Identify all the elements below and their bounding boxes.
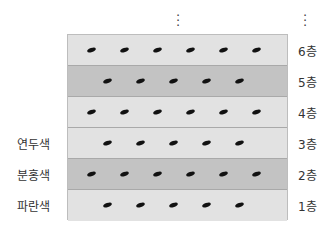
- grain-icon: [219, 47, 229, 54]
- grain-icon: [202, 140, 212, 147]
- layer-3층: [68, 128, 287, 159]
- layer-6층: [68, 35, 287, 66]
- grain-icon: [252, 171, 262, 178]
- layer-5층: [68, 66, 287, 97]
- grain-icon: [186, 109, 196, 116]
- floor-label: 5층: [298, 73, 317, 90]
- grain-icon: [120, 109, 130, 116]
- grain-icon: [202, 78, 212, 85]
- grain-icon: [87, 47, 97, 54]
- grain-icon: [103, 202, 113, 209]
- grain-icon: [120, 47, 130, 54]
- grain-icon: [169, 78, 179, 85]
- grain-icon: [186, 171, 196, 178]
- floor-label: 4층: [298, 104, 317, 121]
- grain-icon: [169, 202, 179, 209]
- floor-label: 2층: [298, 166, 317, 183]
- grain-icon: [169, 140, 179, 147]
- grain-icon: [252, 47, 262, 54]
- layer-1층: [68, 190, 287, 221]
- grain-icon: [153, 109, 163, 116]
- grain-icon: [120, 171, 130, 178]
- color-label: 분홍색: [17, 166, 50, 183]
- grain-icon: [202, 202, 212, 209]
- grain-icon: [87, 171, 97, 178]
- grain-icon: [235, 202, 245, 209]
- grain-icon: [136, 202, 146, 209]
- grain-icon: [87, 109, 97, 116]
- grain-icon: [219, 109, 229, 116]
- floor-label: 3층: [298, 135, 317, 152]
- grain-icon: [153, 171, 163, 178]
- grain-icon: [103, 140, 113, 147]
- color-label: 연두색: [17, 135, 50, 152]
- grain-icon: [153, 47, 163, 54]
- layer-2층: [68, 159, 287, 190]
- grain-icon: [219, 171, 229, 178]
- continuation-dots-center: ···: [173, 13, 183, 28]
- grain-icon: [136, 140, 146, 147]
- grain-icon: [252, 109, 262, 116]
- layer-stack: [67, 34, 288, 220]
- continuation-dots-right: ···: [300, 13, 310, 28]
- floor-label: 1층: [298, 197, 317, 214]
- floor-label: 6층: [298, 42, 317, 59]
- color-label: 파란색: [17, 197, 50, 214]
- layer-4층: [68, 97, 287, 128]
- grain-icon: [103, 78, 113, 85]
- grain-icon: [235, 140, 245, 147]
- grain-icon: [186, 47, 196, 54]
- grain-icon: [136, 78, 146, 85]
- grain-icon: [235, 78, 245, 85]
